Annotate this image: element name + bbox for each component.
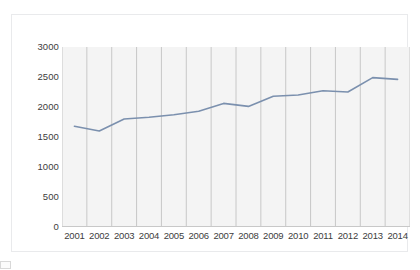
x-tick-label: 2001 [64,231,84,241]
y-axis-tick-labels: 050010001500200025003000 [23,47,59,227]
chart-svg [62,47,410,227]
y-tick-label: 1000 [37,162,59,172]
x-tick-label: 2009 [263,231,283,241]
plot-area [62,47,410,227]
x-tick-label: 2002 [89,231,109,241]
y-tick-label: 3000 [37,42,59,52]
x-tick-label: 2014 [387,231,407,241]
y-tick-label: 500 [43,192,59,202]
chart-card: 050010001500200025003000 200120022003200… [11,14,408,252]
x-tick-label: 2010 [288,231,308,241]
gridlines-vertical [62,47,410,227]
caption-swatch-icon [0,261,11,269]
x-tick-label: 2008 [238,231,258,241]
x-tick-label: 2011 [313,231,333,241]
x-tick-label: 2007 [213,231,233,241]
x-tick-label: 2003 [114,231,134,241]
y-tick-label: 2500 [37,72,59,82]
y-tick-label: 1500 [37,132,59,142]
x-axis-line [62,226,410,227]
x-tick-label: 2013 [363,231,383,241]
x-tick-label: 2006 [189,231,209,241]
chart-screenshot: 050010001500200025003000 200120022003200… [0,0,420,270]
x-axis-tick-labels: 2001200220032004200520062007200820092010… [62,231,410,247]
x-tick-label: 2005 [164,231,184,241]
y-tick-label: 0 [54,222,59,232]
x-tick-label: 2012 [338,231,358,241]
caption-strip [0,258,420,270]
x-tick-label: 2004 [139,231,159,241]
y-tick-label: 2000 [37,102,59,112]
